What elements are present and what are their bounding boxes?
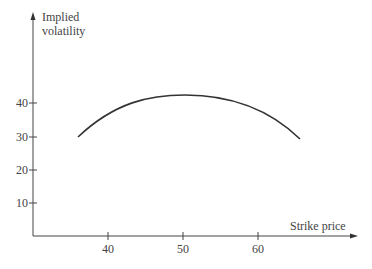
volatility-smile-curve [78, 95, 300, 139]
x-tick-label-40: 40 [93, 242, 123, 257]
y-tick-label-30: 30 [4, 130, 28, 145]
y-tick-label-10: 10 [4, 196, 28, 211]
x-axis-arrow-icon [350, 234, 358, 239]
y-axis-label-line2: volatility [42, 24, 85, 38]
y-axis-arrow-icon [31, 12, 36, 20]
y-axis-label-line1: Implied [42, 10, 79, 24]
y-tick-label-20: 20 [4, 163, 28, 178]
x-tick-label-60: 60 [243, 242, 273, 257]
x-tick-label-50: 50 [168, 242, 198, 257]
x-axis-label: Strike price [290, 219, 346, 233]
y-tick-label-40: 40 [4, 96, 28, 111]
